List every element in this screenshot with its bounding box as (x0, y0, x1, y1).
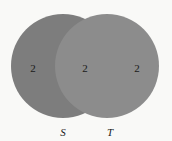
set-t-label: T (107, 126, 114, 138)
venn-diagram: 2 2 2 S T (0, 0, 172, 141)
region-s-only-count: 2 (30, 62, 36, 74)
region-t-only-count: 2 (134, 62, 140, 74)
region-intersection-count: 2 (82, 62, 88, 74)
set-t-circle (55, 14, 159, 118)
set-s-label: S (60, 126, 66, 138)
